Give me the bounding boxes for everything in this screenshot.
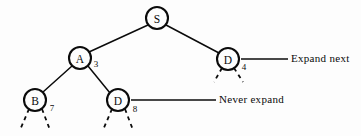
annotation-never-expand: Never expand — [219, 93, 284, 105]
annotation-expand-next: Expand next — [291, 52, 350, 64]
tree-edge-a-b — [43, 66, 72, 92]
search-tree-figure: SADBD 3478 Expand next Never expand — [0, 0, 361, 136]
tree-node-d1[interactable]: D — [217, 48, 239, 70]
cost-label-d2: 8 — [133, 104, 138, 114]
tree-edge-a-d2 — [88, 66, 110, 93]
cost-label-d1: 4 — [242, 62, 247, 72]
dashed-child-stubs — [20, 68, 243, 130]
tree-nodes: SADBD — [24, 7, 239, 111]
dashed-stub-b-2 — [20, 109, 29, 130]
node-label-d1: D — [224, 54, 232, 66]
node-label-s: S — [154, 13, 160, 25]
node-label-d2: D — [114, 95, 122, 107]
cost-label-a: 3 — [94, 59, 99, 69]
tree-edge-s-a — [89, 25, 148, 52]
dashed-stub-d2-4 — [103, 109, 112, 130]
cost-label-b: 7 — [50, 103, 55, 113]
tree-node-s[interactable]: S — [146, 7, 168, 29]
tree-graphic: SADBD 3478 — [0, 0, 361, 136]
tree-node-d2[interactable]: D — [107, 89, 129, 111]
tree-node-a[interactable]: A — [69, 47, 91, 69]
tree-edge-s-d1 — [166, 25, 219, 53]
node-label-a: A — [76, 53, 85, 65]
dashed-stub-d1-0 — [214, 68, 222, 82]
node-label-b: B — [31, 95, 39, 107]
tree-node-b[interactable]: B — [24, 89, 46, 111]
